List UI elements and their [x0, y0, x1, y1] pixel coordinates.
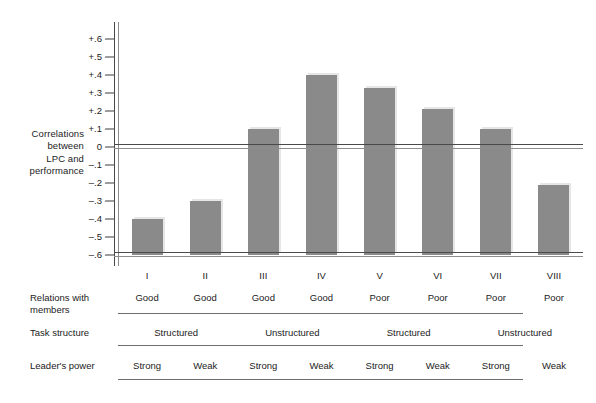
matrix-cell: Unstructured: [498, 327, 552, 339]
matrix-cell: Strong: [482, 360, 510, 372]
category-label: III: [259, 270, 267, 282]
zero-line: [114, 144, 583, 145]
bar: [364, 88, 395, 255]
bar-series: [0, 0, 596, 403]
matrix-cell: Good: [135, 292, 158, 304]
matrix-row-label: Task structure: [30, 327, 130, 339]
matrix-cell: Unstructured: [265, 327, 319, 339]
matrix-cell: Weak: [193, 360, 217, 372]
category-label: II: [203, 270, 208, 282]
bar: [306, 75, 337, 255]
matrix-cell: Good: [310, 292, 333, 304]
matrix-row-label: Relations with members: [30, 292, 130, 317]
matrix-cell: Strong: [366, 360, 394, 372]
category-label: I: [146, 270, 149, 282]
matrix-cell: Strong: [249, 360, 277, 372]
chart-figure: Correlations between LPC and performance…: [0, 0, 596, 403]
bar: [538, 185, 569, 255]
matrix-cell: Structured: [387, 327, 431, 339]
bar: [132, 219, 163, 255]
category-label: VIII: [547, 270, 561, 282]
matrix-cell: Weak: [426, 360, 450, 372]
matrix-row-label: Leader's power: [30, 360, 130, 372]
matrix-cell: Strong: [133, 360, 161, 372]
matrix-cell: Good: [252, 292, 275, 304]
matrix-row-rule: [118, 313, 523, 314]
baseline-shadow: [114, 256, 583, 257]
matrix-cell: Weak: [309, 360, 333, 372]
matrix-cell: Poor: [486, 292, 506, 304]
category-label: V: [376, 270, 382, 282]
matrix-cell: Weak: [542, 360, 566, 372]
baseline: [114, 252, 583, 253]
category-label: IV: [317, 270, 326, 282]
zero-line-shadow: [114, 148, 583, 149]
matrix-cell: Poor: [370, 292, 390, 304]
matrix-cell: Poor: [544, 292, 564, 304]
matrix-cell: Poor: [428, 292, 448, 304]
bar: [422, 109, 453, 255]
bar: [190, 201, 221, 255]
matrix-cell: Good: [194, 292, 217, 304]
matrix-cell: Structured: [154, 327, 198, 339]
matrix-row-rule: [118, 379, 523, 380]
category-label: VII: [490, 270, 502, 282]
category-label: VI: [433, 270, 442, 282]
matrix-row-rule: [118, 345, 523, 346]
